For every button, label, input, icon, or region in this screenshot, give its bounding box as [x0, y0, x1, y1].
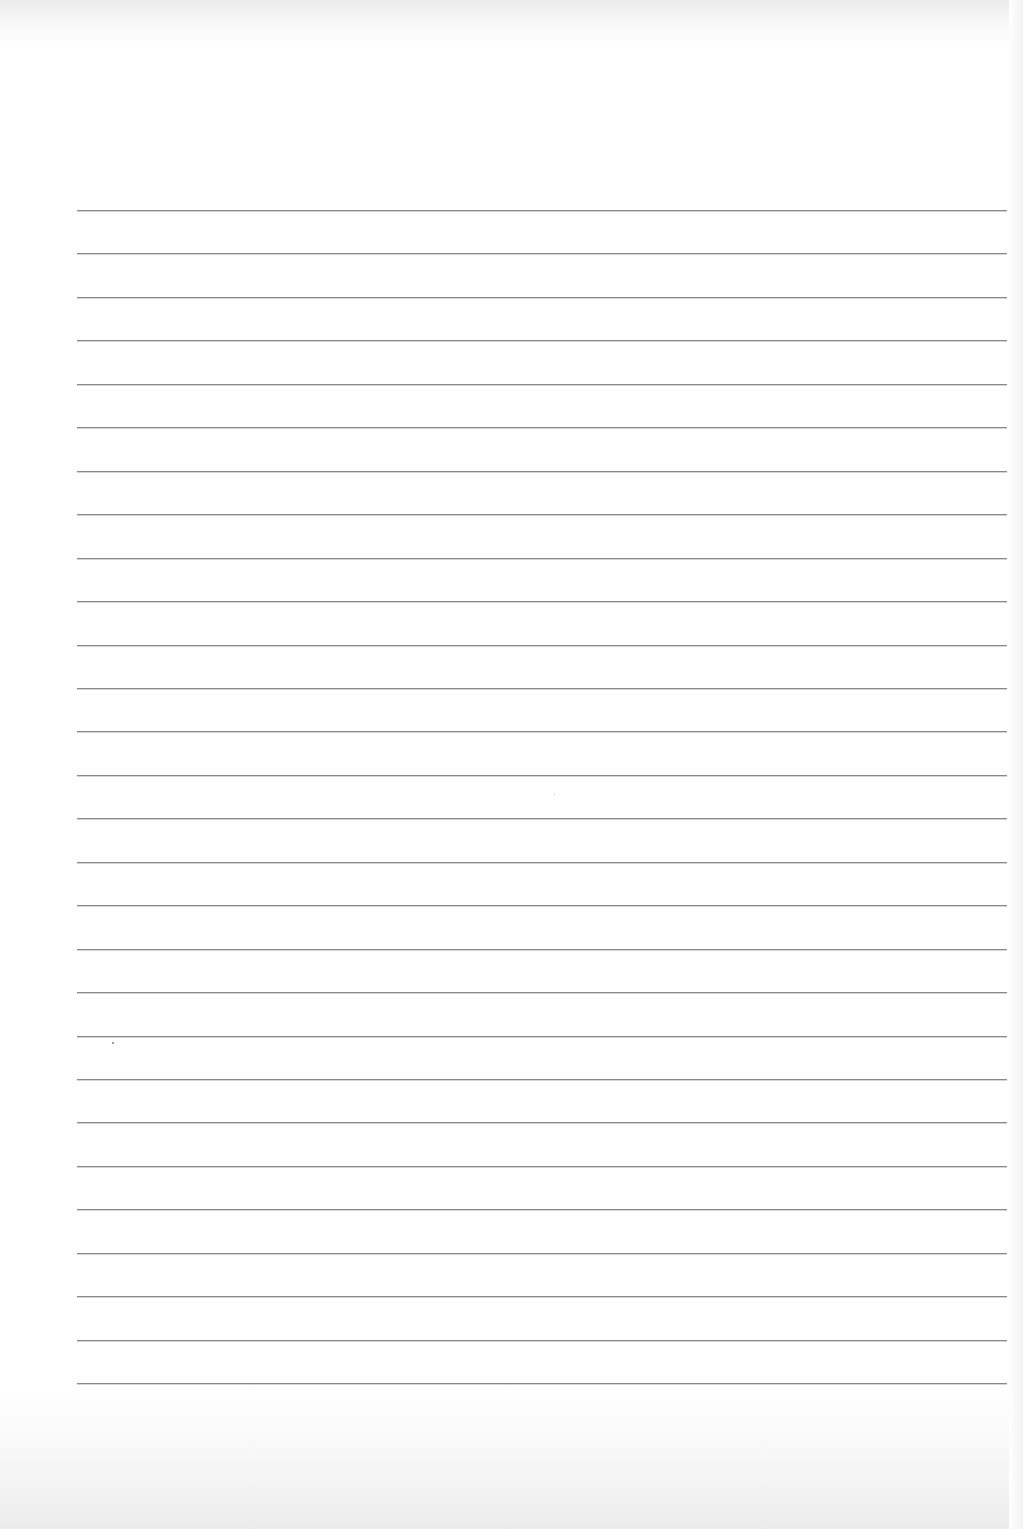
ruled-line: [77, 1340, 1007, 1341]
ruled-line: [77, 645, 1007, 646]
ruled-line: [77, 1166, 1007, 1167]
ruled-line: [77, 862, 1007, 863]
ruled-line: [77, 818, 1007, 819]
ruled-line: [77, 1296, 1007, 1297]
ruled-line: [77, 1253, 1007, 1254]
ruled-line: [77, 210, 1007, 211]
ruled-line: [77, 731, 1007, 732]
paper-speck: [112, 1042, 114, 1044]
ruled-line: [77, 905, 1007, 906]
ruled-lines-area: [0, 0, 1023, 1529]
ruled-line: [77, 775, 1007, 776]
ruled-line: [77, 471, 1007, 472]
paper-speck: [554, 794, 555, 795]
ruled-line: [77, 1122, 1007, 1123]
ruled-line: [77, 1209, 1007, 1210]
ruled-line: [77, 297, 1007, 298]
ruled-line: [77, 688, 1007, 689]
ruled-line: [77, 1036, 1007, 1037]
ruled-line: [77, 949, 1007, 950]
ruled-line: [77, 340, 1007, 341]
ruled-line: [77, 992, 1007, 993]
ruled-line: [77, 427, 1007, 428]
ruled-line: [77, 558, 1007, 559]
ruled-line: [77, 384, 1007, 385]
ruled-line: [77, 1079, 1007, 1080]
ruled-line: [77, 601, 1007, 602]
ruled-line: [77, 253, 1007, 254]
ruled-line: [77, 1383, 1007, 1384]
ruled-line: [77, 514, 1007, 515]
